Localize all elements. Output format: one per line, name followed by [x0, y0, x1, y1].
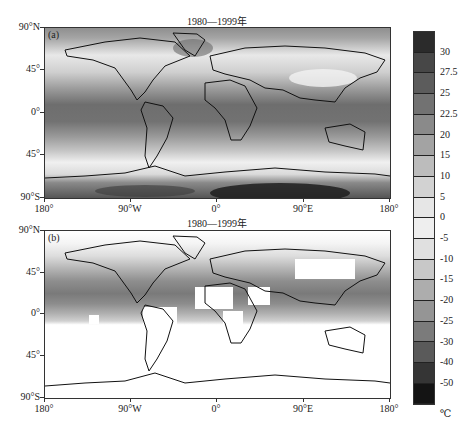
colorbar-tick-label: 25 [440, 87, 450, 98]
ytick-label-0-b: 0° [0, 307, 40, 318]
colorbar-tick-label: 20 [440, 129, 450, 140]
ytick [40, 313, 44, 314]
colorbar-tick-label: -50 [440, 377, 453, 388]
colorbar-tick-label: -20 [440, 294, 453, 305]
colorbar-segment [414, 280, 434, 301]
ytick-label-90n-b: 90°N [0, 224, 40, 235]
colorbar-segment [414, 53, 434, 74]
ytick-label-45n-b: 45° [0, 266, 40, 277]
colorbar-tick-label: 10 [440, 170, 450, 181]
xtick [389, 198, 390, 202]
colorbar-segment [414, 239, 434, 260]
colorbar-segment [414, 342, 434, 363]
xtick-label-180e-a: 180° [367, 203, 411, 214]
colorbar-segment [414, 115, 434, 136]
xtick-label-0-a: 0° [194, 203, 238, 214]
colorbar-segment [414, 73, 434, 94]
ytick [40, 272, 44, 273]
colorbar-tick-label: -15 [440, 273, 453, 284]
ytick-label-45s-b: 45° [0, 349, 40, 360]
colorbar-tick-label: 22.5 [440, 108, 458, 119]
panel-b-title: 1980—1999年 [117, 215, 317, 230]
colorbar-segment [414, 198, 434, 219]
colorbar-tick-label: 0 [440, 211, 445, 222]
colorbar-segment [414, 301, 434, 322]
xtick [130, 198, 131, 202]
panel-a-label: (a) [48, 29, 59, 40]
ytick-label-90s-a: 90°S [0, 191, 40, 202]
ytick [40, 154, 44, 155]
xtick-label-90e-b: 90°E [281, 403, 325, 414]
ytick [40, 69, 44, 70]
xtick-label-180e-b: 180° [367, 403, 411, 414]
xtick [216, 198, 217, 202]
colorbar-segment [414, 94, 434, 115]
colorbar-segment [414, 156, 434, 177]
xtick-label-180w-a: 180° [22, 203, 66, 214]
ytick [40, 230, 44, 231]
panel-b-map: (b) [44, 230, 391, 399]
xtick [44, 198, 45, 202]
xtick-label-90w-a: 90°W [108, 203, 152, 214]
xtick-label-90w-b: 90°W [108, 403, 152, 414]
ytick-label-90n-a: 90°N [0, 21, 40, 32]
colorbar-unit-label: ℃ [440, 408, 451, 419]
colorbar-segment [414, 260, 434, 281]
colorbar-tick-label: 27.5 [440, 66, 458, 77]
colorbar-tick-label: 15 [440, 149, 450, 160]
ytick-label-0-a: 0° [0, 106, 40, 117]
colorbar-tick-label: -40 [440, 356, 453, 367]
ytick [40, 112, 44, 113]
xtick [389, 398, 390, 402]
xtick [216, 398, 217, 402]
colorbar-tick-label: -5 [440, 232, 448, 243]
colorbar-tick-label: -25 [440, 315, 453, 326]
panel-a-map: (a) [44, 27, 391, 199]
xtick [44, 398, 45, 402]
colorbar-segment [414, 32, 434, 53]
colorbar-segment [414, 384, 434, 405]
colorbar-tick-label: 30 [440, 46, 450, 57]
colorbar-tick-label: 5 [440, 191, 445, 202]
colorbar-segment [414, 322, 434, 343]
colorbar-segment [414, 218, 434, 239]
temperature-field-a [45, 28, 390, 198]
ytick [40, 27, 44, 28]
xtick-label-0-b: 0° [194, 403, 238, 414]
colorbar-segment [414, 363, 434, 384]
colorbar [413, 31, 435, 405]
panel-a-title: 1980—1999年 [117, 13, 317, 28]
temperature-field-b [45, 231, 390, 398]
ytick-label-90s-b: 90°S [0, 391, 40, 402]
colorbar-segment [414, 177, 434, 198]
colorbar-segment [414, 135, 434, 156]
panel-b-label: (b) [48, 232, 60, 243]
ytick-label-45n-a: 45° [0, 63, 40, 74]
colorbar-tick-label: -10 [440, 253, 453, 264]
xtick-label-180w-b: 180° [22, 403, 66, 414]
ytick [40, 355, 44, 356]
xtick [130, 398, 131, 402]
colorbar-tick-label: -30 [440, 336, 453, 347]
xtick-label-90e-a: 90°E [281, 203, 325, 214]
xtick [303, 198, 304, 202]
ytick-label-45s-a: 45° [0, 148, 40, 159]
xtick [303, 398, 304, 402]
